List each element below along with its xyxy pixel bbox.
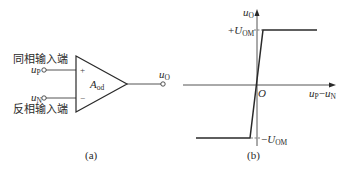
caption-a: (a) [85, 149, 98, 162]
pos-sat-label: +UOM [228, 24, 255, 38]
plus-sign: + [80, 65, 85, 75]
terminal-n [42, 96, 46, 100]
terminal-o [161, 82, 165, 86]
caption-b: (b) [247, 149, 260, 162]
label-noninverting: 同相输入端 [13, 52, 68, 66]
y-axis-arrow-icon [255, 9, 260, 16]
opamp-figure: + − Aod 同相输入端 反相输入端 uP uN uO (a) uO [0, 0, 354, 173]
x-axis-label: uP−uN [309, 87, 336, 101]
input-n-label: uN [31, 91, 43, 105]
origin-label: O [258, 87, 266, 99]
terminal-p [42, 68, 46, 72]
opamp-symbol: + − Aod 同相输入端 反相输入端 uP uN uO (a) [13, 52, 171, 162]
transfer-curve [196, 30, 317, 138]
gain-label: Aod [89, 78, 104, 92]
transfer-characteristic: uO +UOM −UOM O uP−uN (b) [183, 6, 336, 162]
minus-sign: − [80, 93, 85, 103]
output-label: uO [159, 68, 171, 82]
neg-sat-label: −UOM [261, 133, 288, 147]
y-axis-label: uO [243, 6, 255, 20]
